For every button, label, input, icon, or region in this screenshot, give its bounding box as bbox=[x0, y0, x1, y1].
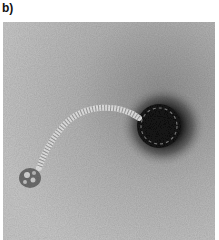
phage-micrograph bbox=[3, 22, 215, 240]
phage-head bbox=[137, 104, 181, 148]
panel-label: b) bbox=[2, 1, 13, 15]
phage-baseplate bbox=[19, 168, 41, 188]
micrograph-image bbox=[3, 22, 215, 240]
